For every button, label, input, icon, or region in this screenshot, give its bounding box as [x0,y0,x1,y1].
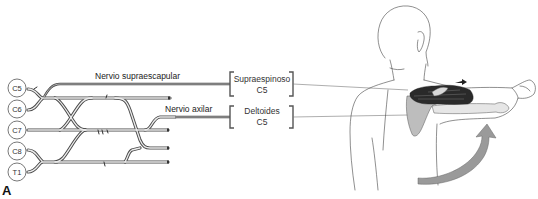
head [378,6,430,66]
root-c7: C7 [8,121,26,139]
deltoid-name: Deltoides [244,106,279,116]
leader-lines-to-body [293,84,408,117]
abduction-arrow-icon [418,124,496,184]
suprascapular-nerve-label: Nervio supraescapular [95,71,180,81]
root-c5: C5 [8,79,26,97]
root-c8: C8 [8,142,26,160]
root-c6: C6 [8,100,26,118]
brachial-plexus-diagram: C5 C6 C7 C8 T1 Nervio supraescapular Ner… [0,0,538,199]
small-arrow-icon [455,79,467,85]
deltoid-root: C5 [257,117,268,127]
root-c7-label: C7 [12,126,22,135]
axillary-nerve-label: Nervio axilar [165,104,212,114]
brachial-plexus [28,87,175,172]
spinal-roots: C5 C6 C7 C8 T1 [8,79,26,181]
root-t1-label: T1 [13,168,22,177]
neck [390,60,394,80]
muscle-bracket-deltoid: Deltoides C5 [230,106,293,128]
root-c8-label: C8 [12,147,22,156]
panel-label: A [2,183,12,198]
ear [417,31,424,52]
root-c5-label: C5 [12,84,22,93]
root-t1: T1 [8,163,26,181]
plexus-inner [28,89,175,172]
supraspinatus-root: C5 [257,85,268,95]
muscle-bracket-supraspinatus: Supraespinoso C5 [230,72,293,96]
root-c6-label: C6 [12,105,22,114]
supraspinatus-name: Supraespinoso [234,74,291,84]
